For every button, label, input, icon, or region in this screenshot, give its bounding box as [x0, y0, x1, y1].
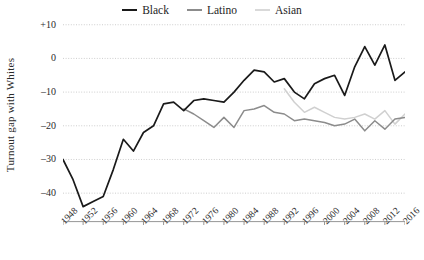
- legend-label-black: Black: [142, 4, 169, 16]
- y-tick-label: +10: [20, 20, 56, 30]
- legend-label-latino: Latino: [207, 4, 237, 16]
- y-tick-label: 0: [20, 53, 56, 63]
- legend-item-asian: Asian: [255, 4, 302, 16]
- y-tick-label: –10: [20, 87, 56, 97]
- series-line-black: [63, 45, 405, 207]
- y-axis-title-text: Turnout gap with Whites: [4, 58, 16, 172]
- chart-legend: Black Latino Asian: [0, 2, 424, 18]
- legend-item-latino: Latino: [187, 4, 237, 16]
- legend-label-asian: Asian: [275, 4, 302, 16]
- plot-svg: [63, 18, 405, 210]
- plot-area: [63, 18, 405, 210]
- y-tick-label: –20: [20, 121, 56, 131]
- series-lines: [63, 45, 405, 207]
- y-tick-label: –30: [20, 154, 56, 164]
- x-axis-tick-labels: 1948195219561960196419681972197619801984…: [0, 219, 424, 259]
- legend-swatch-asian: [255, 9, 270, 11]
- chart-container: Black Latino Asian Turnout gap with Whit…: [0, 0, 424, 260]
- legend-swatch-black: [122, 9, 137, 11]
- y-tick-label: –40: [20, 188, 56, 198]
- legend-item-black: Black: [122, 4, 169, 16]
- legend-swatch-latino: [187, 9, 202, 11]
- y-axis-title: Turnout gap with Whites: [2, 22, 18, 208]
